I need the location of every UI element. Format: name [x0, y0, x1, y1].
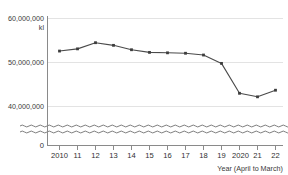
x-tick-labels: 2010 11 12 13 14 15 16 17 18 19 2020 21 … — [51, 151, 280, 160]
ytick-label-40m: 40,000,000 — [8, 102, 44, 111]
xtick-label-4: 14 — [127, 151, 135, 160]
y-unit-label: kl — [39, 23, 45, 32]
xtick-label-2: 12 — [91, 151, 99, 160]
data-point-marker — [58, 50, 61, 53]
axis-break — [20, 122, 288, 135]
series-line-volume — [60, 43, 276, 97]
data-point-marker — [130, 48, 133, 51]
data-point-marker — [94, 41, 97, 44]
ytick-label-50m: 50,000,000 — [8, 58, 44, 67]
xtick-label-11: 21 — [253, 151, 261, 160]
chart-canvas: 60,000,000 50,000,000 40,000,000 0 kl 20… — [0, 0, 288, 175]
xtick-label-9: 19 — [217, 151, 225, 160]
line-chart: 60,000,000 50,000,000 40,000,000 0 kl 20… — [0, 0, 288, 175]
data-point-marker — [256, 95, 259, 98]
data-point-marker — [220, 62, 223, 65]
gridlines — [47, 19, 283, 107]
data-point-marker — [184, 52, 187, 55]
data-point-marker — [148, 51, 151, 54]
xtick-label-12: 22 — [271, 151, 279, 160]
xtick-label-3: 13 — [109, 151, 117, 160]
ytick-label-zero: 0 — [40, 141, 44, 150]
data-point-marker — [238, 92, 241, 95]
data-point-marker — [166, 51, 169, 54]
xtick-label-1: 11 — [74, 151, 82, 160]
xtick-label-8: 18 — [199, 151, 207, 160]
data-point-marker — [76, 47, 79, 50]
series-markers — [58, 41, 277, 98]
xtick-label-7: 17 — [181, 151, 189, 160]
ytick-label-60m: 60,000,000 — [8, 14, 44, 23]
data-point-marker — [274, 89, 277, 92]
xtick-label-6: 16 — [163, 151, 171, 160]
data-point-marker — [202, 54, 205, 57]
x-tickmarks — [60, 146, 276, 150]
xtick-label-0: 2010 — [51, 151, 68, 160]
data-point-marker — [112, 44, 115, 47]
xtick-label-10: 2020 — [232, 151, 249, 160]
x-axis-caption: Year (April to March) — [217, 164, 283, 173]
xtick-label-5: 15 — [145, 151, 153, 160]
